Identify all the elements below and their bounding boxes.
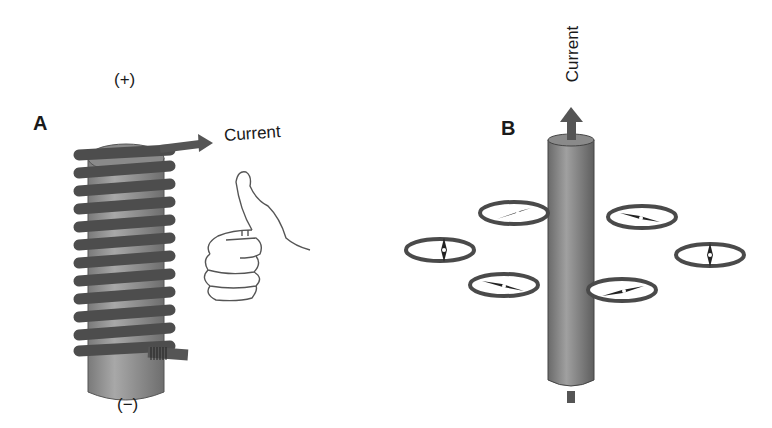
current-arrow-a xyxy=(160,134,213,152)
panel-label-a: A xyxy=(33,112,47,135)
compass-icon xyxy=(470,274,538,296)
current-label-b: Current xyxy=(563,26,583,83)
panel-label-b: B xyxy=(501,117,515,140)
compass-icon xyxy=(480,202,548,224)
compass-icon xyxy=(608,206,676,228)
positive-terminal-label: (+) xyxy=(114,70,135,90)
diagram-canvas xyxy=(0,0,772,428)
compass-icon xyxy=(588,279,656,301)
straight-conductor xyxy=(548,134,594,403)
right-hand-thumb-icon xyxy=(204,172,310,301)
compass-icon xyxy=(406,238,474,262)
current-label-a: Current xyxy=(223,122,281,146)
bottom-lead xyxy=(148,347,189,361)
negative-terminal-label: (−) xyxy=(117,395,138,415)
compass-icon xyxy=(676,243,744,267)
